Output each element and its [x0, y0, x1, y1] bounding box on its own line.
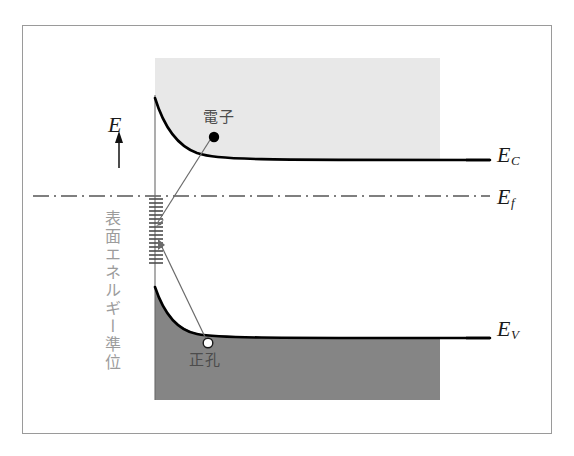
electron-marker [209, 132, 219, 142]
conduction-band-label-sub: C [511, 153, 520, 168]
valence-band-label: EV [497, 318, 519, 341]
surface-state-ticks [149, 199, 163, 263]
band-diagram-svg [0, 0, 574, 456]
fermi-level-label-sub: f [511, 195, 515, 210]
energy-axis-label: E [108, 114, 121, 136]
valence-band-edge [155, 287, 490, 338]
hole-marker [203, 338, 213, 348]
surface-energy-levels-label: 表面エネルギー準位 [103, 210, 119, 372]
valence-band-region [155, 280, 440, 401]
electron-label: 電子 [203, 110, 234, 125]
conduction-band-label: EC [497, 144, 520, 167]
valence-band-label-sub: V [511, 327, 519, 342]
conduction-band-region [155, 58, 440, 168]
fermi-level-label: Ef [497, 186, 515, 209]
figure-canvas: E EC Ef EV 電子 正孔 表面エネルギー準位 [0, 0, 574, 456]
fermi-level-label-base: E [497, 184, 510, 209]
electron-transition-line [156, 140, 210, 226]
hole-label: 正孔 [189, 353, 220, 368]
valence-band-label-base: E [497, 316, 510, 341]
conduction-band-label-base: E [497, 142, 510, 167]
